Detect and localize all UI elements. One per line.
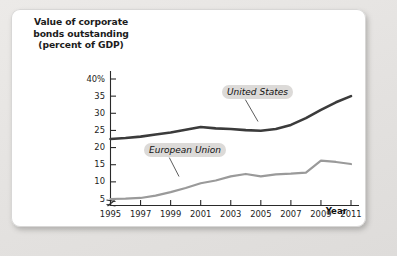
series-label-european-union: European Union [144,143,226,157]
y-axis-tick-label: 5 [51,194,105,204]
leader-line-european-union [169,157,179,177]
x-axis-tick-label: 1995 [94,209,128,219]
y-axis-tick-label: 25 [51,125,105,135]
x-axis-tick-label: 2005 [244,209,278,219]
y-axis-tick-label: 15 [51,159,105,169]
leader-line-united-states [245,99,258,122]
series-line-european-union [111,161,352,199]
x-axis-tick-label: 1997 [124,209,158,219]
series-line-united-states [111,96,352,139]
y-axis-tick-label: 35 [51,91,105,101]
x-axis-tick-label: 2003 [214,209,248,219]
x-axis-tick-label: 1999 [154,209,188,219]
y-axis-tick-label: 30 [51,108,105,118]
y-axis-tick-label: 20 [51,142,105,152]
figure-panel: Value of corporate bonds outstanding (pe… [11,9,366,227]
x-axis-tick-label: 2001 [184,209,218,219]
page-background: Value of corporate bonds outstanding (pe… [0,0,397,256]
y-axis-tick-label: 40% [51,74,105,84]
x-axis-title: Year [326,206,347,216]
x-axis-ticks [111,200,352,206]
annotation-leader-lines [169,99,258,177]
y-axis-tick-label: 10 [51,176,105,186]
x-axis-tick-label: 2007 [274,209,308,219]
series-label-united-states: United States [222,85,293,99]
